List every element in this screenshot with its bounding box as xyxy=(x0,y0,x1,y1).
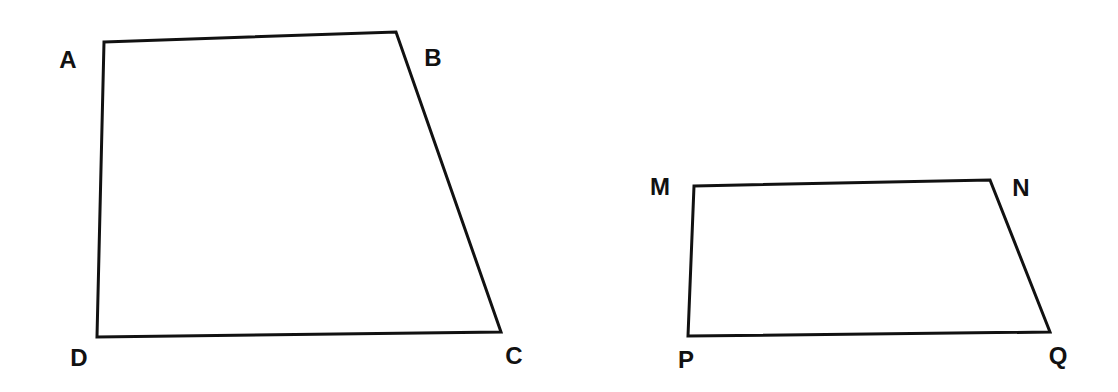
vertex-label-d: D xyxy=(70,344,87,371)
vertex-label-c: C xyxy=(505,342,522,369)
geometry-canvas: A B C D M N Q P xyxy=(0,0,1118,392)
vertex-label-a: A xyxy=(59,46,76,73)
vertex-label-n: N xyxy=(1012,174,1029,201)
vertex-label-q: Q xyxy=(1049,342,1068,369)
vertex-label-p: P xyxy=(678,346,694,373)
vertex-label-m: M xyxy=(650,173,670,200)
vertex-label-b: B xyxy=(424,44,441,71)
quadrilateral-mnqp xyxy=(688,180,1050,336)
quadrilateral-abcd xyxy=(97,32,501,337)
